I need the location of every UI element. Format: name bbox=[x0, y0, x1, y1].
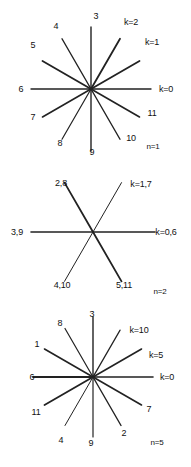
spoke-label-9: 9 bbox=[89, 439, 94, 448]
spoke-label-10: 2 bbox=[122, 429, 127, 438]
spoke-label-5: 1 bbox=[35, 340, 40, 349]
spoke-label-11: 7 bbox=[147, 405, 152, 414]
panel-n5-spokes bbox=[0, 0, 191, 467]
spoke-5 bbox=[45, 349, 94, 377]
spoke-label-7: 11 bbox=[32, 408, 41, 417]
panel-n5: k=0k=5k=103816114927n=5 bbox=[0, 0, 191, 467]
spoke-label-1: k=5 bbox=[149, 351, 163, 360]
spoke-label-0: k=0 bbox=[160, 373, 174, 382]
spoke-label-4: 8 bbox=[58, 319, 63, 328]
starburst-figure: k=0k=1k=234567891011n=1k=0,6k=1,72,83,94… bbox=[0, 0, 191, 467]
case-label: n=5 bbox=[151, 438, 164, 447]
spoke-label-2: k=10 bbox=[130, 326, 149, 335]
spoke-label-3: 3 bbox=[90, 310, 95, 319]
spoke-7 bbox=[45, 377, 94, 405]
spoke-label-6: 6 bbox=[30, 373, 35, 382]
spoke-label-8: 4 bbox=[59, 436, 64, 445]
